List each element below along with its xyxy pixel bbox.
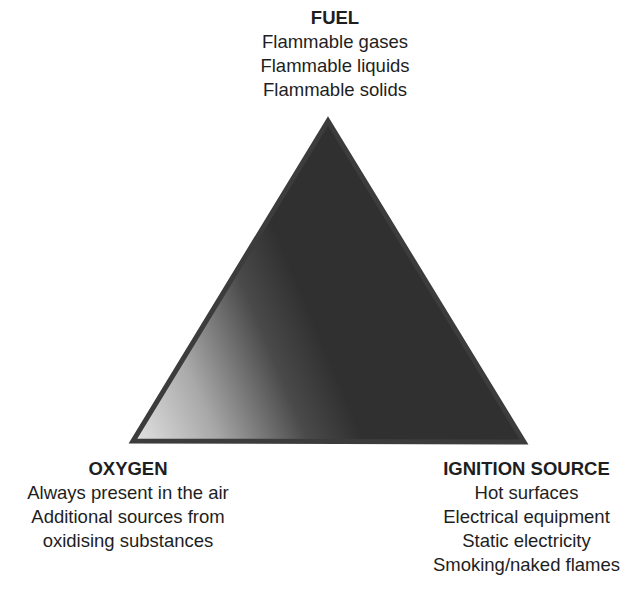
fuel-item: Flammable liquids (235, 54, 435, 78)
oxygen-label: OXYGEN Always present in the air Additio… (0, 457, 256, 553)
oxygen-title: OXYGEN (0, 457, 256, 481)
ignition-title: IGNITION SOURCE (410, 457, 643, 481)
fuel-item: Flammable solids (235, 78, 435, 102)
triangle-shape (133, 121, 524, 442)
ignition-item: Hot surfaces (410, 481, 643, 505)
ignition-item: Smoking/naked flames (410, 553, 643, 577)
ignition-source-label: IGNITION SOURCE Hot surfaces Electrical … (410, 457, 643, 577)
oxygen-item: Always present in the air (0, 481, 256, 505)
fuel-label: FUEL Flammable gases Flammable liquids F… (235, 6, 435, 102)
ignition-item: Static electricity (410, 529, 643, 553)
fuel-item: Flammable gases (235, 30, 435, 54)
oxygen-item: Additional sources from (0, 505, 256, 529)
oxygen-item: oxidising substances (0, 529, 256, 553)
ignition-item: Electrical equipment (410, 505, 643, 529)
fuel-title: FUEL (235, 6, 435, 30)
